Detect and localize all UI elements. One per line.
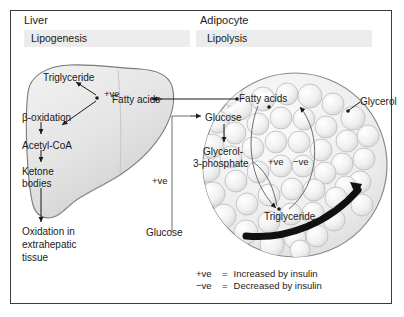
acetyl-coa-label: Acetyl-CoA: [22, 140, 72, 151]
adipocyte-glucose-label: Glucose: [205, 112, 242, 123]
middle-glucose-label: Glucose: [146, 227, 183, 238]
legend-positive-text: Increased by insulin: [234, 268, 318, 279]
lipolysis-label: Lipolysis: [207, 33, 247, 45]
legend-negative-equals: =: [222, 280, 228, 291]
lipogenesis-label: Lipogenesis: [31, 33, 87, 45]
legend-positive-equals: =: [222, 268, 228, 279]
adipocyte-positive-label: +ve: [268, 157, 284, 168]
ketone-bodies-label-line2: bodies: [22, 178, 51, 189]
legend-row-negative: −ve = Decreased by insulin: [196, 280, 322, 291]
liver-title: Liver: [24, 14, 48, 26]
legend-positive-symbol: +ve: [196, 268, 216, 279]
glycerol-3-phosphate-label-line1: Glycerol-: [203, 146, 243, 157]
adipocyte-fatty-acids-label: Fatty acids: [239, 93, 287, 104]
glycerol-3-phosphate-label-line2: 3-phosphate: [193, 158, 249, 169]
oxidation-label-line2: extrahepatic: [22, 239, 76, 250]
legend: +ve = Increased by insulin −ve = Decreas…: [196, 268, 322, 291]
liver-fatty-acids-label: Fatty acids: [112, 94, 160, 105]
legend-row-positive: +ve = Increased by insulin: [196, 268, 322, 279]
legend-negative-text: Decreased by insulin: [234, 280, 322, 291]
figure-canvas: Liver Lipogenesis Adipocyte Lipolysis Tr…: [0, 0, 404, 317]
oxidation-label-line1: Oxidation in: [22, 226, 75, 237]
glucose-supply-line: [172, 116, 201, 232]
ketone-bodies-label-line1: Ketone: [22, 166, 54, 177]
middle-ve-label: +ve: [152, 176, 168, 187]
adipocyte-title: Adipocyte: [200, 14, 248, 26]
beta-oxidation-label: β-oxidation: [22, 112, 71, 123]
adipocyte-glycerol-label: Glycerol: [360, 96, 397, 107]
liver-triglyceride-label: Triglyceride: [43, 72, 94, 83]
oxidation-label-line3: tissue: [22, 252, 48, 263]
adipocyte-negative-label: −ve: [293, 157, 309, 168]
legend-negative-symbol: −ve: [196, 280, 216, 291]
adipocyte-triglyceride-label: Triglyceride: [264, 211, 315, 222]
